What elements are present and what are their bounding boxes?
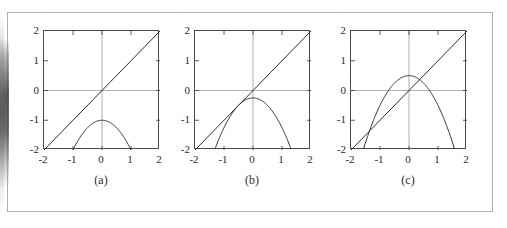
x-tick-label: 2 <box>156 154 162 165</box>
plot-panel-c: -2-1012-2-1012(c) <box>350 30 466 189</box>
x-tick-label: 1 <box>434 154 440 165</box>
x-tick-label: 2 <box>463 154 469 165</box>
panel-caption-c: (c) <box>401 173 414 188</box>
plot-axes-box-c <box>350 30 466 149</box>
x-tick-label: 0 <box>98 154 104 165</box>
x-tick-label: -1 <box>67 154 76 165</box>
y-tick-label: 0 <box>34 84 40 95</box>
x-tick-label: -1 <box>218 154 227 165</box>
y-tick-label: 1 <box>185 54 191 65</box>
y-tick-label: 0 <box>341 84 347 95</box>
x-tick-label: 0 <box>405 154 411 165</box>
x-tick-label: -1 <box>374 154 383 165</box>
scan-smudge-artifact-edge <box>0 14 4 212</box>
y-tick-label: 0 <box>185 84 191 95</box>
panel-caption-b: (b) <box>245 173 259 188</box>
y-tick-label: -1 <box>30 114 39 125</box>
x-tick-label: -2 <box>38 154 47 165</box>
plot-panel-a: -2-1012-2-1012(a) <box>43 30 159 189</box>
x-tick-label: 1 <box>127 154 133 165</box>
y-tick-label: 1 <box>341 54 347 65</box>
plot-canvas-c <box>351 31 467 150</box>
y-tick-label: 1 <box>34 54 40 65</box>
plot-axes-box-a <box>43 30 159 149</box>
y-tick-label: 2 <box>185 25 191 36</box>
plot-canvas-b <box>195 31 311 150</box>
y-tick-label: 2 <box>34 25 40 36</box>
y-tick-label: 2 <box>341 25 347 36</box>
x-tick-label: 0 <box>249 154 255 165</box>
panel-caption-a: (a) <box>94 173 107 188</box>
x-tick-label: -2 <box>345 154 354 165</box>
plot-axes-box-b <box>194 30 310 149</box>
plot-canvas-a <box>44 31 160 150</box>
y-tick-label: -1 <box>181 114 190 125</box>
x-tick-label: 1 <box>278 154 284 165</box>
plot-panel-b: -2-1012-2-1012(b) <box>194 30 310 189</box>
x-tick-label: 2 <box>307 154 313 165</box>
x-tick-label: -2 <box>189 154 198 165</box>
figure-root: -2-1012-2-1012(a)-2-1012-2-1012(b)-2-101… <box>0 0 507 228</box>
y-tick-label: -1 <box>337 114 346 125</box>
